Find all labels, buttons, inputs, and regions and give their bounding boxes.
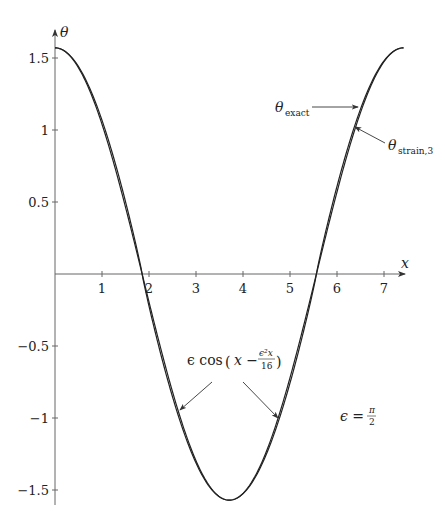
x-tick-label: 1	[98, 281, 106, 296]
epsilon-label: ϵ =	[340, 408, 364, 424]
annotation-approx: ϵ cos ( x − ϵ²x 16 )	[180, 348, 281, 418]
theta-strain-label: θ	[388, 137, 397, 153]
y-axis-label: θ	[60, 24, 69, 40]
theta-exact-label: θ	[275, 99, 284, 115]
theta-strain-arrow	[355, 127, 385, 143]
x-tick-label: 5	[286, 281, 294, 296]
theta-strain-subscript: strain,3	[398, 146, 433, 156]
y-tick-label: 0.5	[28, 195, 49, 210]
axes	[55, 30, 405, 505]
epsilon-numerator: π	[368, 405, 376, 415]
approx-lparen: (	[225, 354, 230, 370]
theta-exact-subscript: exact	[285, 108, 310, 118]
approx-arrow-left	[180, 382, 212, 410]
y-tick-label: −0.5	[17, 339, 49, 354]
x-tick-label: 4	[239, 281, 247, 296]
y-tick-label: −1	[30, 411, 49, 426]
epsilon-denominator: 2	[369, 417, 375, 427]
annotation-theta-exact: θ exact	[275, 99, 358, 118]
approx-denominator: 16	[261, 361, 273, 371]
annotation-epsilon: ϵ = π 2	[340, 405, 376, 427]
approx-numerator: ϵ²x	[259, 348, 273, 358]
approx-prefix: ϵ cos	[187, 352, 223, 368]
x-tick-label: 3	[192, 281, 200, 296]
annotation-theta-strain: θ strain,3	[355, 127, 433, 156]
x-tick-label: 7	[380, 281, 388, 296]
y-ticks: 1.510.5−0.5−1−1.5	[17, 51, 58, 498]
y-tick-label: −1.5	[17, 483, 49, 498]
approx-rparen: )	[276, 354, 281, 370]
y-tick-label: 1	[41, 123, 49, 138]
approx-arrow-right	[243, 382, 278, 418]
approx-inner: x −	[234, 352, 258, 368]
x-ticks: 1234567	[98, 271, 388, 296]
chart-canvas: 1234567 1.510.5−0.5−1−1.5 x θ θ exact θ …	[0, 0, 445, 524]
y-tick-label: 1.5	[28, 51, 49, 66]
x-tick-label: 6	[333, 281, 341, 296]
x-axis-label: x	[401, 255, 409, 271]
